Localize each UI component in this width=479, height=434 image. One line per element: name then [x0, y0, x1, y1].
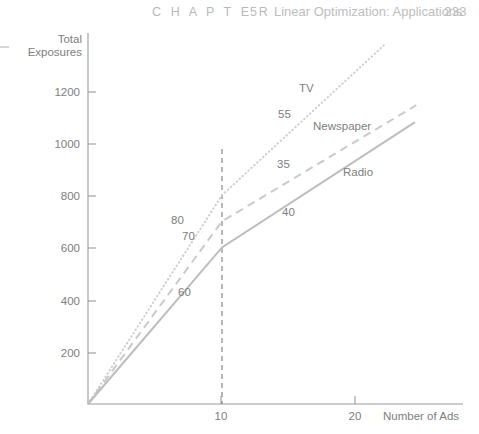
y-tick-label-200: 200 — [44, 347, 80, 359]
page-canvas: C H A P T E R 5 Linear Optimization: App… — [0, 0, 479, 434]
y-axis-title-line1: Total — [20, 33, 82, 46]
series-label-tv: TV — [299, 82, 314, 94]
y-tick-label-600: 600 — [44, 242, 80, 254]
slope-label-radio-upper: 40 — [282, 206, 295, 218]
x-axis-title: Number of Ads — [383, 410, 459, 422]
series-line-tv — [88, 44, 386, 404]
y-tick-label-800: 800 — [44, 190, 80, 202]
x-tick-label-20: 20 — [340, 410, 370, 422]
series-label-radio: Radio — [343, 166, 373, 178]
y-axis-title: Total Exposures — [20, 33, 82, 58]
x-axis-ticks — [221, 396, 355, 404]
series-label-newspaper: Newspaper — [313, 120, 371, 132]
y-tick-label-1200: 1200 — [44, 86, 80, 98]
slope-label-radio-lower: 60 — [178, 286, 191, 298]
series-line-radio — [88, 122, 415, 404]
slope-label-newspaper-upper: 35 — [277, 158, 290, 170]
y-axis-ticks — [88, 92, 96, 353]
x-tick-label-10: 10 — [206, 410, 236, 422]
slope-label-tv-upper: 55 — [278, 108, 291, 120]
series-line-newspaper — [88, 105, 416, 404]
y-tick-label-1000: 1000 — [44, 138, 80, 150]
slope-label-newspaper-lower: 70 — [182, 230, 195, 242]
y-tick-label-400: 400 — [44, 295, 80, 307]
slope-label-tv-lower: 80 — [171, 214, 184, 226]
exposure-chart — [0, 0, 479, 434]
y-axis-title-line2: Exposures — [20, 46, 82, 59]
